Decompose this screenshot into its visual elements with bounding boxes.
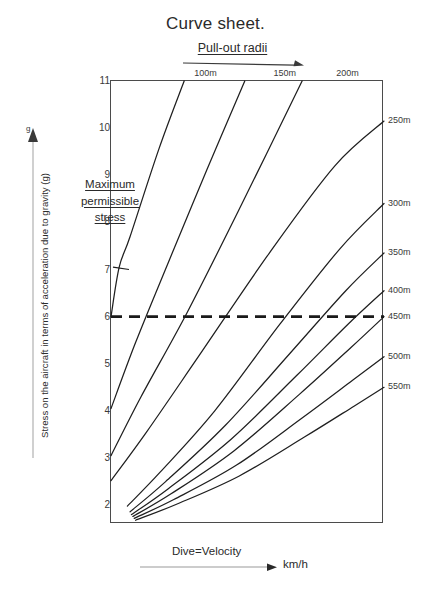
y-tick-label-6: 6 — [88, 310, 110, 321]
arrow-up-icon — [27, 128, 39, 458]
y-tick-label-4: 4 — [88, 404, 110, 415]
plot-area — [110, 80, 383, 523]
curve-label-550m: 550m — [388, 381, 411, 391]
y-tick-label-3: 3 — [88, 452, 110, 463]
arrow-right-icon — [140, 562, 278, 572]
curve-400m — [131, 291, 384, 515]
annotation-line-3: stress — [95, 211, 126, 223]
curve-label-450m: 450m — [388, 311, 411, 321]
curve-label-100m: 100m — [194, 68, 217, 78]
curve-350m — [130, 253, 384, 512]
curve-label-350m: 350m — [388, 247, 411, 257]
curve-300m — [127, 204, 384, 507]
curve-150m — [111, 81, 245, 409]
page-title: Curve sheet. — [0, 14, 431, 34]
curve-label-400m: 400m — [388, 285, 411, 295]
x-axis-group: Dive=Velocity km/h — [140, 545, 340, 579]
pullout-radii-group: Pull-out radii — [175, 41, 325, 69]
curve-label-200m: 200m — [336, 68, 359, 78]
y-axis-ticks: 111098765432 — [80, 0, 110, 590]
y-tick-label-5: 5 — [88, 357, 110, 368]
annotation-line-2: permissible — [81, 195, 139, 207]
y-tick-label-7: 7 — [88, 263, 110, 274]
x-axis-label: Dive=Velocity — [172, 545, 241, 557]
y-axis-caption: Stress on the aircraft in terms of accel… — [39, 146, 50, 466]
curves-layer — [111, 81, 384, 524]
max-permissible-stress-annotation: Maximum permissible stress — [58, 176, 162, 226]
curve-label-150m: 150m — [273, 68, 296, 78]
pullout-radii-label: Pull-out radii — [175, 41, 290, 55]
y-tick-label-10: 10 — [88, 122, 110, 133]
curve-label-500m: 500m — [388, 351, 411, 361]
y-tick-label-11: 11 — [88, 75, 110, 86]
curve-label-300m: 300m — [388, 198, 411, 208]
annotation-leader-line — [113, 267, 129, 269]
y-tick-label-2: 2 — [88, 499, 110, 510]
curve-label-250m: 250m — [388, 115, 411, 125]
annotation-line-1: Maximum — [85, 178, 135, 190]
x-axis-unit: km/h — [283, 558, 308, 570]
